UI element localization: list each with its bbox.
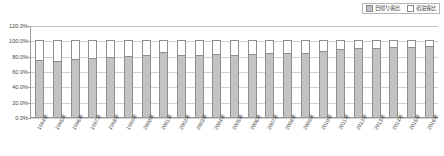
bar-segment-daytrip[interactable] — [177, 55, 186, 117]
x-axis-label-cell: 1995年 — [48, 119, 66, 156]
bar-column[interactable] — [173, 26, 191, 117]
bar-stack[interactable] — [195, 40, 204, 117]
bar-stack[interactable] — [159, 40, 168, 117]
bar-segment-overnight[interactable] — [372, 40, 381, 47]
bar-segment-daytrip[interactable] — [159, 52, 168, 117]
bar-series-group — [31, 26, 438, 117]
x-axis-label-cell: 1998年 — [101, 119, 119, 156]
bar-column[interactable] — [226, 26, 244, 117]
bar-stack[interactable] — [142, 40, 151, 117]
bar-stack[interactable] — [319, 40, 328, 117]
bar-stack[interactable] — [71, 40, 80, 117]
bar-segment-overnight[interactable] — [88, 40, 97, 58]
bar-stack[interactable] — [336, 40, 345, 117]
bar-column[interactable] — [66, 26, 84, 117]
bar-stack[interactable] — [425, 40, 434, 117]
bar-column[interactable] — [137, 26, 155, 117]
bar-stack[interactable] — [301, 40, 310, 117]
bar-segment-overnight[interactable] — [265, 40, 274, 53]
bar-segment-daytrip[interactable] — [35, 60, 44, 118]
plot-area — [30, 26, 438, 118]
bar-segment-daytrip[interactable] — [301, 53, 310, 117]
bar-stack[interactable] — [177, 40, 186, 117]
bar-column[interactable] — [102, 26, 120, 117]
bar-segment-daytrip[interactable] — [425, 46, 434, 117]
bar-column[interactable] — [155, 26, 173, 117]
bar-segment-daytrip[interactable] — [372, 48, 381, 117]
bar-segment-overnight[interactable] — [319, 40, 328, 51]
bar-segment-overnight[interactable] — [248, 40, 257, 53]
bar-segment-daytrip[interactable] — [88, 58, 97, 117]
bar-stack[interactable] — [407, 40, 416, 117]
bar-segment-overnight[interactable] — [53, 40, 62, 61]
bar-segment-daytrip[interactable] — [230, 55, 239, 117]
bar-segment-overnight[interactable] — [35, 40, 44, 59]
bar-column[interactable] — [243, 26, 261, 117]
bar-segment-overnight[interactable] — [177, 40, 186, 55]
bar-stack[interactable] — [230, 40, 239, 117]
bar-column[interactable] — [190, 26, 208, 117]
bar-stack[interactable] — [354, 40, 363, 117]
bar-column[interactable] — [367, 26, 385, 117]
bar-column[interactable] — [385, 26, 403, 117]
bar-segment-daytrip[interactable] — [53, 61, 62, 117]
bar-column[interactable] — [350, 26, 368, 117]
bar-segment-daytrip[interactable] — [124, 56, 133, 117]
bar-segment-daytrip[interactable] — [106, 57, 115, 117]
bar-segment-daytrip[interactable] — [389, 47, 398, 117]
bar-segment-daytrip[interactable] — [195, 55, 204, 117]
bar-segment-overnight[interactable] — [71, 40, 80, 59]
bar-stack[interactable] — [35, 40, 44, 117]
chart-legend: 日帰り客比 宿泊客比 — [362, 3, 440, 14]
bar-segment-daytrip[interactable] — [354, 48, 363, 117]
bar-segment-overnight[interactable] — [407, 40, 416, 47]
x-axis: 1994年1995年1996年1997年1998年1999年2000年2001年… — [30, 119, 438, 156]
bar-stack[interactable] — [389, 40, 398, 117]
bar-segment-daytrip[interactable] — [336, 49, 345, 117]
bar-segment-overnight[interactable] — [212, 40, 221, 53]
bar-stack[interactable] — [283, 40, 292, 117]
bar-stack[interactable] — [53, 40, 62, 117]
legend-item-stay[interactable]: 宿泊客比 — [407, 5, 436, 12]
bar-segment-overnight[interactable] — [336, 40, 345, 49]
bar-stack[interactable] — [372, 40, 381, 117]
bar-segment-daytrip[interactable] — [248, 54, 257, 117]
bar-segment-overnight[interactable] — [124, 40, 133, 56]
bar-segment-daytrip[interactable] — [283, 53, 292, 117]
bar-stack[interactable] — [124, 40, 133, 117]
bar-segment-daytrip[interactable] — [407, 47, 416, 117]
bar-column[interactable] — [279, 26, 297, 117]
bar-segment-daytrip[interactable] — [142, 55, 151, 117]
bar-segment-overnight[interactable] — [283, 40, 292, 52]
legend-item-day[interactable]: 日帰り客比 — [366, 5, 400, 12]
bar-stack[interactable] — [212, 40, 221, 117]
bar-stack[interactable] — [248, 40, 257, 117]
bar-segment-overnight[interactable] — [301, 40, 310, 53]
x-axis-label-cell: 2007年 — [261, 119, 279, 156]
bar-segment-overnight[interactable] — [354, 40, 363, 48]
bar-segment-overnight[interactable] — [159, 40, 168, 52]
bar-column[interactable] — [208, 26, 226, 117]
bar-stack[interactable] — [265, 40, 274, 117]
bar-segment-overnight[interactable] — [142, 40, 151, 55]
bar-segment-overnight[interactable] — [106, 40, 115, 56]
bar-segment-daytrip[interactable] — [212, 54, 221, 117]
x-axis-label-cell: 2012年 — [349, 119, 367, 156]
bar-column[interactable] — [49, 26, 67, 117]
bar-column[interactable] — [403, 26, 421, 117]
bar-stack[interactable] — [88, 40, 97, 117]
bar-segment-daytrip[interactable] — [265, 53, 274, 117]
bar-column[interactable] — [332, 26, 350, 117]
bar-column[interactable] — [31, 26, 49, 117]
bar-column[interactable] — [84, 26, 102, 117]
bar-segment-daytrip[interactable] — [319, 51, 328, 117]
bar-column[interactable] — [261, 26, 279, 117]
bar-segment-daytrip[interactable] — [71, 59, 80, 117]
bar-stack[interactable] — [106, 40, 115, 117]
bar-segment-overnight[interactable] — [195, 40, 204, 55]
bar-column[interactable] — [420, 26, 438, 117]
bar-segment-overnight[interactable] — [230, 40, 239, 54]
bar-column[interactable] — [314, 26, 332, 117]
bar-column[interactable] — [297, 26, 315, 117]
bar-column[interactable] — [120, 26, 138, 117]
